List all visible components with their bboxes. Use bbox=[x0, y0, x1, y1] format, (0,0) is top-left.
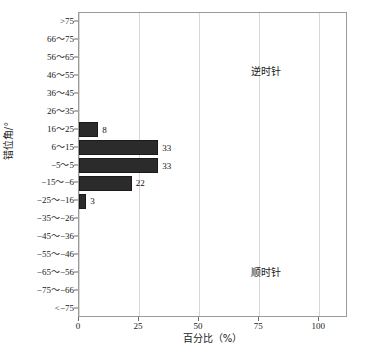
bar-value-label: 22 bbox=[136, 179, 145, 188]
bar bbox=[79, 158, 158, 173]
x-tick-label: 50 bbox=[194, 322, 203, 331]
y-tick-label: −55～−46 bbox=[37, 250, 74, 259]
bar bbox=[79, 194, 86, 209]
y-tick-label: −35～−26 bbox=[37, 214, 74, 223]
y-tick-label: 36～45 bbox=[47, 88, 74, 97]
y-tick-label: −15～−6 bbox=[41, 178, 74, 187]
bar-value-label: 3 bbox=[90, 197, 95, 206]
y-axis-title: 错位角/° bbox=[4, 106, 14, 176]
bar-row: 22 bbox=[79, 176, 347, 191]
x-tick-label: 100 bbox=[311, 322, 325, 331]
bar-value-label: 33 bbox=[162, 161, 171, 170]
y-tick-label: 6～15 bbox=[52, 142, 75, 151]
x-tick-label: 75 bbox=[254, 322, 263, 331]
y-tick-label: 16～25 bbox=[47, 124, 74, 133]
y-tick-label: −75～−66 bbox=[37, 286, 74, 295]
y-tick-label: −45～−36 bbox=[37, 232, 74, 241]
bar-value-label: 33 bbox=[162, 143, 171, 152]
x-axis-title: 百分比（%） bbox=[78, 334, 347, 344]
y-tick-label: >75 bbox=[60, 16, 74, 25]
annotation-counterclockwise: 逆时针 bbox=[251, 63, 281, 78]
bar-row: 8 bbox=[79, 122, 347, 137]
plot-area: 83333223 逆时针 顺时针 bbox=[78, 12, 347, 317]
y-tick-label: 46～55 bbox=[47, 70, 74, 79]
y-tick-label: <−75 bbox=[55, 304, 74, 313]
x-tick-label: 25 bbox=[134, 322, 143, 331]
bar-row: 33 bbox=[79, 140, 347, 155]
y-tick-label: −65～−56 bbox=[37, 268, 74, 277]
bar bbox=[79, 176, 132, 191]
bar-row: 3 bbox=[79, 194, 347, 209]
y-tick-label: 66～75 bbox=[47, 34, 74, 43]
y-tick-label: 56～65 bbox=[47, 52, 74, 61]
x-tick-label: 0 bbox=[76, 322, 81, 331]
bar bbox=[79, 122, 98, 137]
bar bbox=[79, 140, 158, 155]
bar-chart-figure: 错位角/° >7566～7556～6546～5536～4526～3516～256… bbox=[0, 0, 372, 352]
y-tick-label: −5～5 bbox=[51, 160, 74, 169]
y-tick-label: 26～35 bbox=[47, 106, 74, 115]
bar-value-label: 8 bbox=[102, 125, 107, 134]
annotation-clockwise: 顺时针 bbox=[251, 264, 281, 279]
bar-row: 33 bbox=[79, 158, 347, 173]
y-tick-label: −25～−16 bbox=[37, 196, 74, 205]
